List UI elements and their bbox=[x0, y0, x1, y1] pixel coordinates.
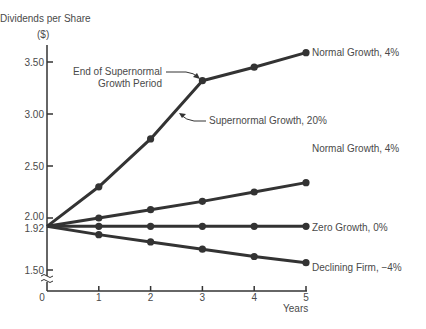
series-line bbox=[47, 226, 310, 266]
series-lines bbox=[47, 49, 310, 266]
y-tick-label: 2.50 bbox=[25, 161, 45, 172]
data-point bbox=[147, 223, 154, 230]
annotation-end-supernormal-line1: End of Supernormal bbox=[73, 66, 162, 77]
data-point bbox=[251, 64, 258, 71]
label-zero-growth: Zero Growth, 0% bbox=[312, 222, 388, 233]
data-point bbox=[251, 188, 258, 195]
label-declining-firm: Declining Firm, −4% bbox=[312, 262, 402, 273]
data-point bbox=[251, 253, 258, 260]
data-point bbox=[302, 223, 309, 230]
data-point bbox=[199, 198, 206, 205]
annotation-end-supernormal-line2: Growth Period bbox=[98, 78, 162, 89]
x-tick-label: 5 bbox=[303, 292, 309, 303]
x-tick-label: 4 bbox=[251, 292, 257, 303]
y-axis-title: Dividends per Share bbox=[0, 13, 91, 24]
x-axis-title: Years bbox=[283, 303, 308, 314]
data-point bbox=[302, 49, 309, 56]
data-point bbox=[95, 223, 102, 230]
data-point bbox=[302, 179, 309, 186]
y-tick-label: 3.50 bbox=[25, 57, 45, 68]
x-axis-ticks: 012345 bbox=[39, 286, 309, 303]
annotation-arrow-supernormal bbox=[181, 115, 206, 121]
data-point bbox=[199, 246, 206, 253]
series-line bbox=[47, 223, 310, 230]
data-point bbox=[95, 214, 102, 221]
label-supernormal-growth: Supernormal Growth, 20% bbox=[209, 115, 327, 126]
data-point bbox=[95, 231, 102, 238]
y-axis-ticks: 1.501.922.002.503.003.50 bbox=[25, 57, 53, 276]
y-axis-unit: ($) bbox=[37, 29, 49, 40]
x-tick-label: 2 bbox=[148, 292, 154, 303]
x-tick-label: 1 bbox=[96, 292, 102, 303]
dividend-growth-chart: Dividends per Share ($) 1.501.922.002.50… bbox=[0, 0, 426, 329]
x-tick-label: 3 bbox=[200, 292, 206, 303]
label-normal-growth: Normal Growth, 4% bbox=[312, 143, 399, 154]
y-tick-label: 1.92 bbox=[25, 223, 45, 234]
data-point bbox=[199, 223, 206, 230]
series-line bbox=[47, 179, 310, 226]
arrow-head-icon bbox=[179, 113, 186, 118]
data-point bbox=[147, 135, 154, 142]
data-point bbox=[302, 259, 309, 266]
label-supernormal-then-normal: Normal Growth, 4% bbox=[312, 47, 399, 58]
y-tick-label: 3.00 bbox=[25, 109, 45, 120]
data-point bbox=[199, 77, 206, 84]
annotation-arrow-end bbox=[166, 72, 198, 77]
data-point bbox=[147, 238, 154, 245]
data-point bbox=[147, 206, 154, 213]
y-tick-label: 1.50 bbox=[25, 265, 45, 276]
y-tick-label: 2.00 bbox=[25, 211, 45, 222]
x-tick-label: 0 bbox=[39, 292, 45, 303]
data-point bbox=[95, 183, 102, 190]
data-point bbox=[251, 223, 258, 230]
